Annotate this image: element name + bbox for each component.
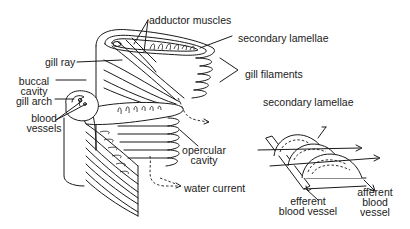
label-efferent-line2: blood vessel — [276, 206, 340, 216]
gill-diagram: adductor muscles secondary lamellae gill… — [0, 0, 410, 229]
label-secondary-lamellae: secondary lamellae — [238, 33, 328, 43]
label-buccal-cavity: buccal cavity — [14, 76, 54, 96]
label-opercular-cavity: opercular cavity — [176, 145, 232, 165]
label-blood-vessels-line2: vessels — [24, 123, 64, 133]
label-gill-filaments: gill filaments — [245, 69, 303, 79]
label-afferent-blood-vessel: afferent blood vessel — [350, 187, 400, 217]
label-inset-secondary-lamellae: secondary lamellae — [263, 97, 353, 107]
label-blood-vessels: blood vessels — [24, 113, 64, 133]
label-gill-arch: gill arch — [16, 96, 52, 106]
label-water-current: water current — [184, 183, 245, 193]
label-efferent-blood-vessel: efferent blood vessel — [276, 196, 340, 216]
label-adductor-muscles: adductor muscles — [149, 15, 231, 25]
label-opercular-cavity-line2: cavity — [176, 155, 232, 165]
label-afferent-line3: vessel — [350, 207, 400, 217]
label-gill-ray: gill ray — [45, 57, 75, 67]
